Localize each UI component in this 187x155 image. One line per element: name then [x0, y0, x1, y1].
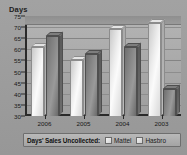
x-axis-tick-label: 2004	[116, 120, 130, 127]
y-axis-tick-label: 45	[5, 79, 21, 86]
bar-face	[70, 60, 83, 116]
legend-label-hasbro: Hasbro	[145, 137, 166, 144]
legend-entry-hasbro[interactable]: Hasbro	[136, 137, 166, 144]
y-axis-tick-label: 75	[5, 13, 21, 20]
y-axis-tick-mark	[21, 38, 25, 39]
bar-face	[109, 29, 122, 116]
bar-mattel-2003	[148, 23, 161, 116]
legend-title: Days' Sales Uncollected:	[27, 137, 100, 144]
x-axis-tick-mark	[45, 116, 46, 119]
bar-mattel-2005	[70, 60, 83, 116]
bar-groups	[25, 16, 181, 116]
y-axis-tick-mark	[21, 71, 25, 72]
legend-swatch-mattel	[105, 137, 112, 144]
y-axis-tick-mark	[21, 27, 25, 28]
bar-side	[137, 43, 141, 116]
bar-face	[148, 23, 161, 116]
bar-mattel-2006	[31, 47, 44, 116]
bar-group	[64, 16, 103, 116]
bar-hasbro-2006	[46, 36, 59, 116]
y-axis-tick-mark	[21, 60, 25, 61]
y-axis-tick-label: 40	[5, 90, 21, 97]
y-axis-tick-mark	[21, 49, 25, 50]
y-axis-tick-mark	[21, 93, 25, 94]
plot-area: 30354045505560657075	[25, 16, 181, 116]
x-axis: 2006200520042003	[25, 116, 181, 128]
x-axis-tick-mark	[162, 116, 163, 119]
y-axis-tick-mark	[21, 82, 25, 83]
y-axis-tick-label: 55	[5, 57, 21, 64]
x-axis-tick-mark	[123, 116, 124, 119]
bar-group	[142, 16, 181, 116]
y-axis-tick-label: 50	[5, 68, 21, 75]
bar-face	[163, 89, 176, 116]
y-axis-tick-mark	[21, 104, 25, 105]
bar-face	[85, 54, 98, 116]
y-axis-tick-label: 35	[5, 101, 21, 108]
bar-side	[98, 49, 102, 116]
legend-entry-mattel[interactable]: Mattel	[105, 137, 131, 144]
bar-hasbro-2004	[124, 47, 137, 116]
bar-face	[124, 47, 137, 116]
bar-hasbro-2005	[85, 54, 98, 116]
bar-side	[59, 32, 63, 116]
bar-face	[31, 47, 44, 116]
bar-group	[25, 16, 64, 116]
days-sales-uncollected-chart: Days 30354045505560657075 20062005200420…	[0, 0, 187, 155]
chart-legend: Days' Sales Uncollected: Mattel Hasbro	[23, 133, 181, 147]
legend-swatch-hasbro	[136, 137, 143, 144]
bar-group	[103, 16, 142, 116]
y-axis-tick-label: 65	[5, 35, 21, 42]
y-axis-tick-mark	[21, 16, 25, 17]
y-axis-tick-label: 70	[5, 24, 21, 31]
bar-side	[176, 85, 180, 116]
legend-label-mattel: Mattel	[114, 137, 131, 144]
x-axis-tick-mark	[84, 116, 85, 119]
bar-face	[46, 36, 59, 116]
y-axis-tick-label: 30	[5, 113, 21, 120]
x-axis-tick-label: 2005	[77, 120, 91, 127]
bar-mattel-2004	[109, 29, 122, 116]
bar-hasbro-2003	[163, 89, 176, 116]
x-axis-tick-label: 2006	[38, 120, 52, 127]
y-axis-tick-label: 60	[5, 46, 21, 53]
x-axis-tick-label: 2003	[155, 120, 169, 127]
